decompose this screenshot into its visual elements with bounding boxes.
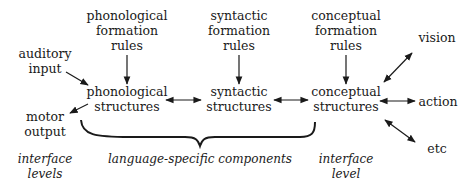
node-etc: etc [427, 141, 446, 156]
label-line: structures [86, 99, 167, 114]
label-line: level [319, 167, 374, 182]
label-line: phonological [86, 84, 167, 99]
label-line: formation [86, 23, 167, 38]
annotation-interface-levels: interface levels [18, 152, 73, 182]
label-line: action [418, 94, 457, 109]
language-specific-brace [81, 120, 315, 146]
node-conceptual-structures: conceptual structures [311, 84, 381, 114]
node-motor-output: motor output [24, 109, 66, 139]
label-line: structures [311, 99, 381, 114]
label-line: interface [18, 152, 73, 167]
node-vision: vision [418, 30, 455, 45]
label-line: formation [311, 23, 381, 38]
node-syntactic-formation-rules: syntactic formation rules [208, 8, 270, 53]
label-line: rules [208, 38, 270, 53]
label-line: etc [427, 141, 446, 156]
label-line: output [24, 124, 66, 139]
edge-conc-vision [384, 53, 412, 82]
label-line: syntactic [206, 84, 271, 99]
node-auditory-input: auditory input [18, 46, 71, 76]
edge-phon-struct-to-motor [70, 104, 88, 113]
label-line: auditory [18, 46, 71, 61]
diagram-canvas: phonological formation rules syntactic f… [0, 0, 475, 192]
node-syntactic-structures: syntactic structures [206, 84, 271, 114]
label-line: syntactic [208, 8, 270, 23]
label-line: conceptual [311, 8, 381, 23]
label-line: structures [206, 99, 271, 114]
label-line: formation [208, 23, 270, 38]
annotation-language-specific-components: language-specific components [108, 152, 292, 167]
label-line: motor [24, 109, 66, 124]
edge-conc-etc [385, 120, 415, 142]
annotation-interface-level: interface level [319, 152, 374, 182]
node-phonological-structures: phonological structures [86, 84, 167, 114]
label-line: rules [86, 38, 167, 53]
label-line: levels [18, 167, 73, 182]
label-line: vision [418, 30, 455, 45]
label-line: conceptual [311, 84, 381, 99]
label-line: language-specific components [108, 152, 292, 167]
node-action: action [418, 94, 457, 109]
label-line: phonological [86, 8, 167, 23]
node-phonological-formation-rules: phonological formation rules [86, 8, 167, 53]
label-line: rules [311, 38, 381, 53]
label-line: input [18, 61, 71, 76]
node-conceptual-formation-rules: conceptual formation rules [311, 8, 381, 53]
label-line: interface [319, 152, 374, 167]
